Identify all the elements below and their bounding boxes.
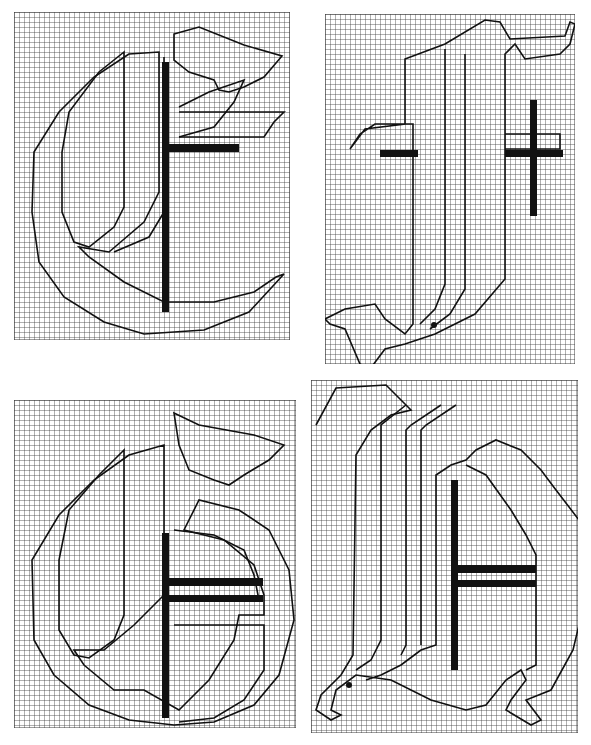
filled-stroke-bar: [458, 580, 536, 587]
grid-background: [325, 14, 575, 364]
filled-dot: [346, 682, 352, 688]
filled-stroke-bar: [458, 565, 536, 573]
filled-stroke-bar: [169, 595, 263, 602]
letter-grid-panel-bottom-left: [14, 400, 296, 728]
letter-grid-panel-top-right: [325, 14, 575, 364]
filled-stroke-bar: [169, 578, 263, 586]
letter-grid-panel-bottom-right: [311, 380, 578, 733]
grid-background: [311, 380, 578, 733]
filled-stroke-bar: [169, 144, 239, 152]
letter-grid-panel-top-left: [14, 12, 290, 340]
filled-stroke-bar: [530, 100, 537, 216]
filled-stroke-bar: [451, 480, 458, 670]
filled-dot: [431, 322, 437, 328]
filled-stroke-bar: [162, 62, 169, 312]
grid-background: [14, 12, 290, 340]
filled-stroke-bar: [162, 533, 169, 718]
filled-stroke-bar: [380, 150, 418, 157]
